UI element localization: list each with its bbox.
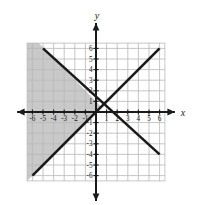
y-tick-label: -1: [87, 119, 93, 127]
x-tick-label: 6: [158, 115, 162, 123]
y-tick-label: 3: [89, 77, 93, 85]
y-tick-label: 6: [89, 45, 93, 53]
coordinate-plane-svg: -6-5-4-3-2-1123456654321-1-2-3-4-5-6xy: [0, 0, 206, 205]
y-tick-label: 1: [89, 98, 93, 106]
x-tick-label: 4: [137, 115, 141, 123]
axis-arrow-down: [93, 193, 100, 201]
x-axis-label: x: [180, 107, 186, 118]
axis-arrow-up: [93, 23, 100, 31]
axis-arrow-right: [167, 109, 175, 116]
x-tick-label: -6: [29, 115, 35, 123]
x-tick-label: -3: [61, 115, 67, 123]
y-axis-label: y: [94, 10, 100, 21]
y-tick-label: 4: [89, 66, 93, 74]
x-tick-label: -5: [40, 115, 46, 123]
y-tick-label: 5: [89, 56, 93, 64]
y-tick-label: -4: [87, 151, 93, 159]
x-tick-label: 3: [126, 115, 130, 123]
x-tick-label: 2: [115, 115, 119, 123]
x-tick-label: -4: [51, 115, 57, 123]
axis-arrow-left: [17, 109, 25, 116]
y-tick-label: 2: [89, 87, 93, 95]
y-tick-label: -6: [87, 172, 93, 180]
y-tick-label: -5: [87, 162, 93, 170]
x-tick-label: 5: [147, 115, 151, 123]
x-tick-label: 1: [105, 115, 109, 123]
x-tick-label: -2: [72, 115, 78, 123]
y-tick-label: -2: [87, 130, 93, 138]
y-tick-label: -3: [87, 140, 93, 148]
graph-figure: -6-5-4-3-2-1123456654321-1-2-3-4-5-6xy x…: [0, 0, 206, 205]
